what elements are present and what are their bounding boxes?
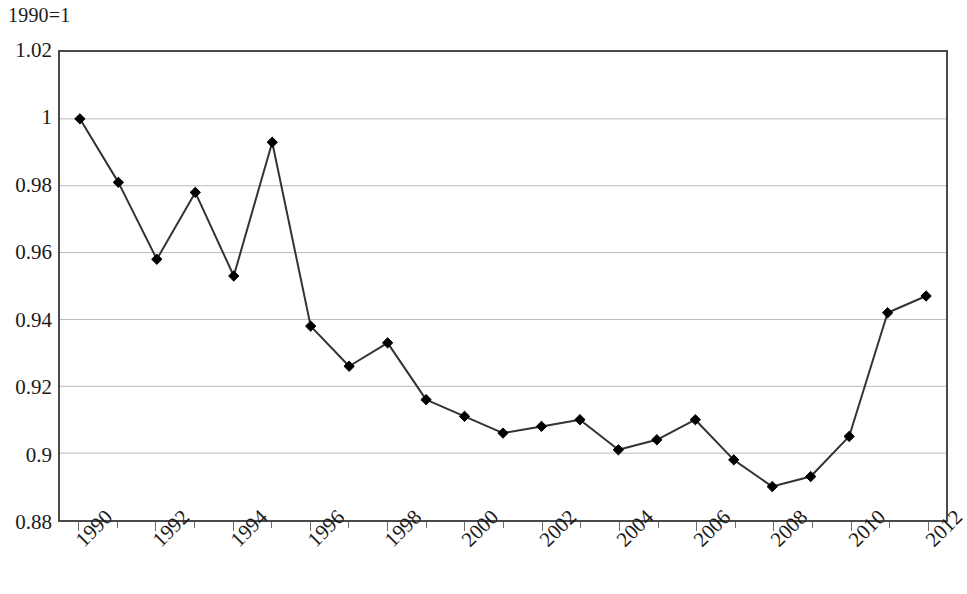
chart-unit-note: 1990=1 (8, 4, 70, 27)
x-axis-tickmark (426, 522, 427, 528)
data-point-marker (190, 187, 200, 197)
x-axis-label-group: 1990199219941996199820002002200420062008… (58, 522, 948, 594)
data-point-marker (75, 114, 85, 124)
x-axis-tickmark (812, 522, 813, 528)
data-point-marker (652, 435, 662, 445)
y-axis-tick-label: 1.02 (0, 40, 52, 61)
y-axis-tick-label: 0.94 (0, 309, 52, 330)
y-axis-tick-label: 0.98 (0, 174, 52, 195)
x-axis-tickmark (503, 522, 504, 528)
y-axis-tick-label: 0.88 (0, 512, 52, 533)
x-axis-tickmark (580, 522, 581, 528)
data-point-marker (498, 428, 508, 438)
data-point-marker (152, 254, 162, 264)
data-point-marker (113, 177, 123, 187)
x-axis-tickmark (348, 522, 349, 528)
y-axis-tick-label: 0.9 (0, 444, 52, 465)
data-point-marker (267, 137, 277, 147)
plot-area (58, 50, 948, 522)
data-point-marker (459, 411, 469, 421)
y-axis-tick-label: 0.92 (0, 377, 52, 398)
y-axis-tick-label: 1 (0, 107, 52, 128)
x-axis-tickmark (117, 522, 118, 528)
x-axis-tickmark (194, 522, 195, 528)
data-point-marker (536, 421, 546, 431)
data-point-marker (229, 271, 239, 281)
x-axis-tickmark (658, 522, 659, 528)
x-axis-tickmark (735, 522, 736, 528)
x-axis-tickmark (271, 522, 272, 528)
x-axis-tickmark (889, 522, 890, 528)
data-point-marker (882, 308, 892, 318)
data-series-layer (60, 52, 946, 520)
data-point-marker (921, 291, 931, 301)
y-axis-tick-label: 0.96 (0, 242, 52, 263)
y-axis-label-group: 1.0210.980.960.940.920.90.88 (0, 50, 52, 522)
